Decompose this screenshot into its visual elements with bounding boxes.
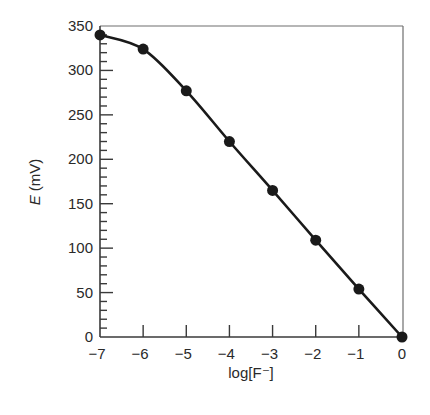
x-tick-label: −3 [261,345,278,362]
x-tick-label: −6 [132,345,149,362]
data-point [267,185,278,196]
x-axis-label: log[F⁻] [228,364,274,381]
x-tick-label: −2 [304,345,321,362]
x-tick-label: −4 [218,345,235,362]
chart: 050100150200250300350 −7−6−5−4−3−2−10 lo… [0,0,430,415]
x-tick-label: −7 [88,345,105,362]
y-tick-label: 250 [68,106,93,123]
y-tick-label: 50 [76,284,93,301]
y-tick-label: 150 [68,195,93,212]
y-tick-label: 200 [68,150,93,167]
y-tick-label: 0 [85,328,93,345]
data-point [353,284,364,295]
y-tick-label: 350 [68,17,93,34]
y-tick-label: 300 [68,61,93,78]
x-tick-label: 0 [398,345,406,362]
x-ticks [143,325,359,337]
y-tick-labels: 050100150200250300350 [68,17,93,345]
series-markers [95,29,408,342]
data-point [138,44,149,55]
y-axis-label-unit: (mV) [26,159,43,196]
data-point [181,85,192,96]
y-tick-label: 100 [68,239,93,256]
y-axis-label: E (mV) [26,159,43,206]
x-tick-label: −5 [175,345,192,362]
data-point [95,29,106,40]
data-point [224,136,235,147]
x-tick-labels: −7−6−5−4−3−2−10 [88,345,406,362]
y-ticks [100,35,113,328]
data-point [397,332,408,343]
data-point [310,235,321,246]
x-tick-label: −1 [347,345,364,362]
